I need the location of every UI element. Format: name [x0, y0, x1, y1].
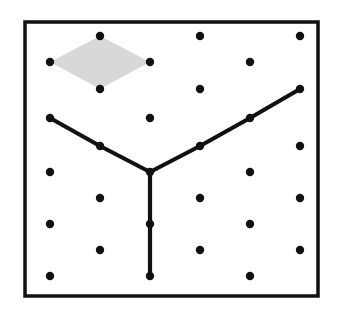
- lattice-dot: [296, 246, 304, 254]
- lattice-dot: [296, 85, 304, 93]
- lattice-dot: [146, 114, 154, 122]
- lattice-dot: [196, 194, 204, 202]
- lattice-dot: [196, 32, 204, 40]
- lattice-dot: [96, 194, 104, 202]
- lattice-dot: [46, 220, 54, 228]
- lattice-dot: [246, 114, 254, 122]
- lattice-dot: [246, 272, 254, 280]
- lattice-dot: [246, 220, 254, 228]
- lattice-dot: [96, 85, 104, 93]
- dot-lattice-figure: [0, 0, 348, 318]
- lattice-dot: [296, 142, 304, 150]
- lattice-dot: [196, 85, 204, 93]
- lattice-dot: [146, 58, 154, 66]
- lattice-dot: [146, 168, 154, 176]
- lattice-dot: [96, 32, 104, 40]
- lattice-dot: [96, 142, 104, 150]
- lattice-dot: [46, 58, 54, 66]
- lattice-dot: [296, 194, 304, 202]
- lattice-dot: [296, 32, 304, 40]
- lattice-dot: [246, 168, 254, 176]
- lattice-dot: [146, 220, 154, 228]
- lattice-dot: [46, 168, 54, 176]
- lattice-dot: [46, 272, 54, 280]
- lattice-dot: [246, 58, 254, 66]
- lattice-dot: [146, 272, 154, 280]
- lattice-dot: [196, 142, 204, 150]
- lattice-dot: [196, 246, 204, 254]
- figure-canvas: [0, 0, 348, 318]
- lattice-dot: [96, 246, 104, 254]
- lattice-dot: [46, 114, 54, 122]
